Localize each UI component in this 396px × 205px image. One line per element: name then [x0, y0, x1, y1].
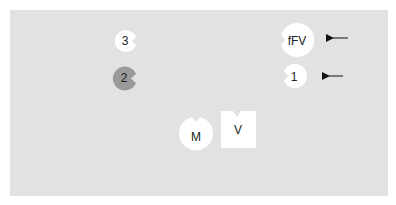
- node-2: 2: [113, 67, 136, 91]
- node-3-label: 3: [122, 34, 129, 48]
- node-1: 1: [284, 64, 307, 88]
- node-2-label: 2: [121, 71, 128, 85]
- node-fFV-label: fFV: [288, 34, 307, 48]
- node-1-label: 1: [291, 70, 298, 84]
- node-fFV: fFV: [281, 23, 314, 57]
- node-M-label: M: [191, 130, 201, 144]
- diagram-canvas: 3 2 fFV 1 M V: [0, 0, 396, 205]
- node-V: V: [221, 111, 256, 148]
- node-3: 3: [115, 30, 136, 52]
- node-V-label: V: [234, 123, 242, 137]
- node-M: M: [179, 117, 213, 151]
